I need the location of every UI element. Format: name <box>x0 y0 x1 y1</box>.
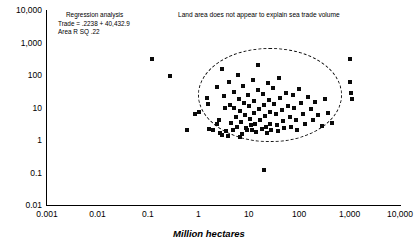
regression-rsq: Area R SQ .22 <box>58 28 130 37</box>
data-point <box>223 106 227 110</box>
data-point <box>229 121 233 125</box>
data-point <box>311 118 315 122</box>
data-point <box>316 113 320 117</box>
data-point <box>220 67 224 71</box>
data-point <box>217 118 221 122</box>
data-point <box>267 98 271 102</box>
x-axis-tick-labels: 0.0010.010.11101001,00010,000 <box>0 210 418 224</box>
data-point <box>262 103 266 107</box>
data-point <box>249 123 253 127</box>
data-point <box>220 133 224 137</box>
data-point <box>241 84 245 88</box>
data-point <box>282 126 286 130</box>
y-axis-tick-label: 1,000 <box>21 38 42 47</box>
data-point <box>236 73 240 77</box>
data-point <box>238 135 242 139</box>
data-point <box>288 115 292 119</box>
data-point <box>289 125 293 129</box>
y-axis-tick-label: 100 <box>28 71 42 80</box>
callout-annotation: Land area does not appear to explain sea… <box>178 11 340 18</box>
y-axis-tick-label: 0.01 <box>25 201 42 210</box>
data-point <box>253 122 257 126</box>
data-point <box>292 106 296 110</box>
data-point <box>268 110 272 114</box>
data-point <box>185 128 189 132</box>
x-axis-tick-label: 1,000 <box>339 210 360 219</box>
data-point <box>260 127 264 131</box>
data-point <box>326 111 330 115</box>
data-point <box>323 97 327 101</box>
data-point <box>252 99 256 103</box>
plot-area <box>47 10 400 205</box>
data-point <box>294 118 298 122</box>
data-point <box>239 120 243 124</box>
data-point <box>238 109 242 113</box>
data-point <box>330 121 334 125</box>
data-point <box>224 129 228 133</box>
x-axis-tick-label: 0.1 <box>142 210 154 219</box>
x-axis-title: Million hectares <box>0 228 418 239</box>
data-point <box>215 85 219 89</box>
data-point <box>313 100 317 104</box>
x-axis-tick-label: 1 <box>196 210 201 219</box>
data-point <box>245 128 249 132</box>
data-point <box>280 108 284 112</box>
data-point <box>303 122 307 126</box>
data-point <box>262 168 266 172</box>
data-point <box>276 129 280 133</box>
data-point <box>197 110 201 114</box>
x-axis-tick-label: 0.01 <box>89 210 106 219</box>
data-point <box>205 96 209 100</box>
data-point <box>211 128 215 132</box>
x-axis-tick-label: 10,000 <box>387 210 413 219</box>
data-point <box>254 130 258 134</box>
data-point <box>237 97 241 101</box>
data-point <box>234 115 238 119</box>
x-axis-tick-label: 0.001 <box>36 210 57 219</box>
data-point <box>286 104 290 108</box>
x-axis-tick-label: 10 <box>244 210 253 219</box>
data-point <box>266 81 270 85</box>
data-point <box>215 122 219 126</box>
data-point <box>277 76 281 80</box>
data-point <box>320 124 324 128</box>
data-point <box>256 88 260 92</box>
x-axis-line <box>46 205 401 206</box>
data-point <box>301 112 305 116</box>
data-point <box>248 117 252 121</box>
data-point <box>258 118 262 122</box>
data-point <box>291 93 295 97</box>
data-point <box>222 94 226 98</box>
data-point <box>246 93 250 97</box>
data-point <box>256 63 260 67</box>
data-point <box>271 86 275 90</box>
data-point <box>268 122 272 126</box>
data-point <box>193 112 197 116</box>
data-point <box>297 87 301 91</box>
data-point <box>231 128 235 132</box>
data-point <box>150 57 154 61</box>
data-point <box>274 112 278 116</box>
data-point <box>235 125 239 129</box>
data-point <box>247 104 251 108</box>
data-point <box>350 97 354 101</box>
regression-equation: Trade = .2238 + 40,432.9 <box>58 20 130 29</box>
data-point <box>252 111 256 115</box>
data-point <box>281 119 285 123</box>
data-point <box>284 91 288 95</box>
scatter-chart: 10,0001,0001001010.10.01 0.0010.010.1110… <box>0 0 418 247</box>
data-point <box>226 134 230 138</box>
data-point <box>272 102 276 106</box>
data-point <box>242 101 246 105</box>
x-axis-tick-label: 100 <box>292 210 306 219</box>
data-point <box>168 74 172 78</box>
data-point <box>278 96 282 100</box>
data-point <box>251 78 255 82</box>
data-point <box>309 107 313 111</box>
regression-analysis-annotation: Regression analysis Trade = .2238 + 40,4… <box>58 11 130 37</box>
data-point <box>348 80 352 84</box>
data-point <box>349 91 353 95</box>
data-point <box>275 123 279 127</box>
data-point <box>348 57 352 61</box>
data-point <box>232 106 236 110</box>
